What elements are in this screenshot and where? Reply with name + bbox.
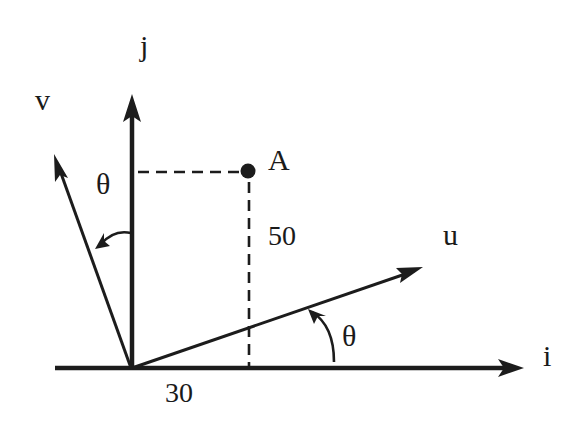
x-value-label: 30 [165, 377, 193, 408]
theta-arc-v-arrowhead-icon [95, 233, 110, 249]
u-vector [132, 267, 423, 368]
v-vector [54, 154, 131, 368]
point-a-label: A [268, 143, 290, 176]
diagram-canvas: j v A θ 50 u θ i 30 [0, 0, 576, 426]
y-value-label: 50 [268, 220, 296, 251]
theta-arc-v [95, 232, 131, 249]
theta-v-label: θ [96, 167, 110, 200]
point-a-marker [241, 164, 256, 179]
v-vector-arrowhead-icon [54, 154, 68, 182]
theta-u-label: θ [342, 319, 356, 352]
i-axis [55, 359, 524, 377]
v-vector-label: v [35, 83, 50, 116]
u-vector-label: u [443, 218, 458, 251]
i-axis-label: i [543, 339, 551, 372]
theta-arc-u [308, 309, 334, 362]
j-axis-label: j [139, 29, 148, 62]
